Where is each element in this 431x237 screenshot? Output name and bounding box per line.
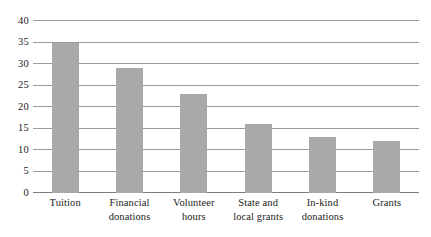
y-axis-tick-labels: 0510152025303540 (0, 21, 29, 193)
bar-chart: 0510152025303540 TuitionFinancial donati… (0, 0, 431, 237)
x-axis-tick-label: In-kind donations (290, 196, 354, 223)
bar (180, 94, 207, 193)
y-axis-tick-label: 0 (3, 188, 29, 199)
y-axis-tick-label: 10 (3, 145, 29, 156)
y-axis-tick-label: 25 (3, 80, 29, 91)
y-axis-tick-label: 35 (3, 37, 29, 48)
gridline (33, 106, 419, 107)
x-axis-tick-label: Volunteer hours (162, 196, 226, 223)
x-axis-tick-label: Financial donations (97, 196, 161, 223)
y-axis-tick-label: 20 (3, 102, 29, 113)
x-axis-tick-label: Tuition (33, 196, 97, 210)
x-axis-tick-label: Grants (355, 196, 419, 210)
gridline (33, 42, 419, 43)
gridline (33, 20, 419, 21)
x-axis-baseline (33, 192, 419, 193)
plot-area (33, 21, 419, 193)
bar (52, 43, 79, 194)
gridline (33, 149, 419, 150)
gridline (33, 85, 419, 86)
bar (116, 68, 143, 193)
y-axis-tick-label: 15 (3, 123, 29, 134)
gridline (33, 171, 419, 172)
x-axis-tick-label: State and local grants (226, 196, 290, 223)
y-axis-tick-label: 40 (3, 16, 29, 27)
x-axis-category-labels: TuitionFinancial donationsVolunteer hour… (33, 196, 419, 237)
y-axis-tick-label: 30 (3, 59, 29, 70)
bar (245, 124, 272, 193)
gridline (33, 128, 419, 129)
bar (373, 141, 400, 193)
bar (309, 137, 336, 193)
gridline (33, 63, 419, 64)
y-axis-tick-label: 5 (3, 166, 29, 177)
